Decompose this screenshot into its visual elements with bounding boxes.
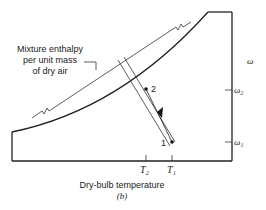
ticks: [146, 90, 232, 161]
x-axis-label: Dry-bulb temperature: [79, 180, 164, 190]
x-tick-t2: T₂: [140, 164, 150, 175]
chart-boundary: [12, 12, 232, 161]
y-tick-omega2: ω₂: [234, 85, 243, 95]
process-lines: [118, 57, 175, 146]
annotation-line-1: Mixture enthalpy: [17, 44, 84, 54]
annotation-line-2: per unit mass: [23, 55, 78, 65]
annotation-leader: [84, 62, 96, 70]
x-tick-t1: T₁: [167, 164, 176, 175]
state-point-1: [170, 140, 174, 144]
state-point-2: [144, 87, 148, 91]
point-label-2: 2: [151, 84, 156, 94]
annotation-line-3: of dry air: [32, 66, 67, 76]
point-label-1: 1: [161, 138, 166, 148]
y-tick-omega1: ω₁: [234, 137, 243, 147]
y-axis-label: ω: [247, 56, 253, 66]
figure-caption: (b): [117, 191, 128, 201]
process-path: [146, 89, 172, 142]
psychrometric-diagram: Mixture enthalpy per unit mass of dry ai…: [0, 0, 266, 210]
